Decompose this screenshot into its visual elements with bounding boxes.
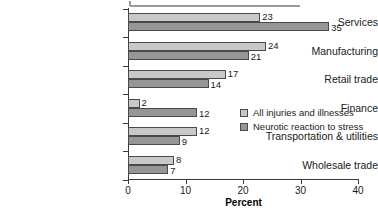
- x-axis-tick-label: 10: [171, 185, 201, 196]
- bar-value-label: 12: [199, 126, 210, 136]
- x-axis-tick-label: 20: [228, 185, 258, 196]
- bar-all-injuries: [128, 156, 174, 165]
- x-axis-tick-label: 0: [113, 185, 143, 196]
- bar-value-label: 17: [228, 69, 239, 79]
- x-axis-tick: [358, 180, 359, 184]
- bar-value-label: 35: [331, 23, 342, 33]
- x-axis-tick: [243, 180, 244, 184]
- x-axis-tick: [301, 180, 302, 184]
- bar-value-label: 12: [199, 109, 210, 119]
- category-label: Wholesale trade: [258, 159, 378, 171]
- legend-label-neurotic-reaction: Neurotic reaction to stress: [253, 121, 363, 132]
- bar-neurotic-reaction: [128, 22, 329, 31]
- bar-value-label: 9: [182, 137, 187, 147]
- x-axis-tick-label: 30: [286, 185, 316, 196]
- bar-neurotic-reaction: [128, 136, 180, 145]
- y-axis-tick: [123, 9, 128, 10]
- x-axis-tick-label: 40: [343, 185, 373, 196]
- y-axis-tick: [123, 123, 128, 124]
- bar-neurotic-reaction: [128, 51, 249, 60]
- x-axis-tick: [186, 180, 187, 184]
- bar-value-label: 24: [268, 41, 279, 51]
- x-axis-title: Percent: [128, 197, 359, 208]
- bar-chart: Services2335Manufacturing2421Retail trad…: [0, 0, 378, 214]
- bar-value-label: 21: [251, 52, 262, 62]
- bar-all-injuries: [128, 42, 266, 51]
- legend-swatch-light-icon: [240, 109, 248, 117]
- bar-value-label: 8: [176, 155, 181, 165]
- chart-legend: All injuries and illnesses Neurotic reac…: [240, 106, 363, 134]
- bar-all-injuries: [128, 70, 226, 79]
- clipped-top-rule-stub: [129, 1, 131, 6]
- bar-value-label: 23: [262, 12, 273, 22]
- bar-value-label: 7: [170, 166, 175, 176]
- legend-item-neurotic-reaction: Neurotic reaction to stress: [240, 120, 363, 133]
- legend-swatch-dark-icon: [240, 123, 248, 131]
- bar-value-label: 2: [142, 98, 147, 108]
- bar-neurotic-reaction: [128, 79, 209, 88]
- bar-all-injuries: [128, 127, 197, 136]
- category-label: Retail trade: [258, 73, 378, 85]
- y-axis-tick: [123, 66, 128, 67]
- y-axis-tick: [123, 37, 128, 38]
- x-axis-tick: [128, 180, 129, 184]
- clipped-top-rule: [130, 5, 300, 7]
- bar-neurotic-reaction: [128, 165, 168, 174]
- legend-item-all-injuries: All injuries and illnesses: [240, 106, 363, 119]
- y-axis-tick: [123, 94, 128, 95]
- bar-neurotic-reaction: [128, 108, 197, 117]
- y-axis-line: [128, 8, 129, 180]
- bar-value-label: 14: [211, 80, 222, 90]
- y-axis-tick: [123, 151, 128, 152]
- bar-all-injuries: [128, 99, 140, 108]
- legend-label-all-injuries: All injuries and illnesses: [253, 107, 354, 118]
- bar-all-injuries: [128, 13, 260, 22]
